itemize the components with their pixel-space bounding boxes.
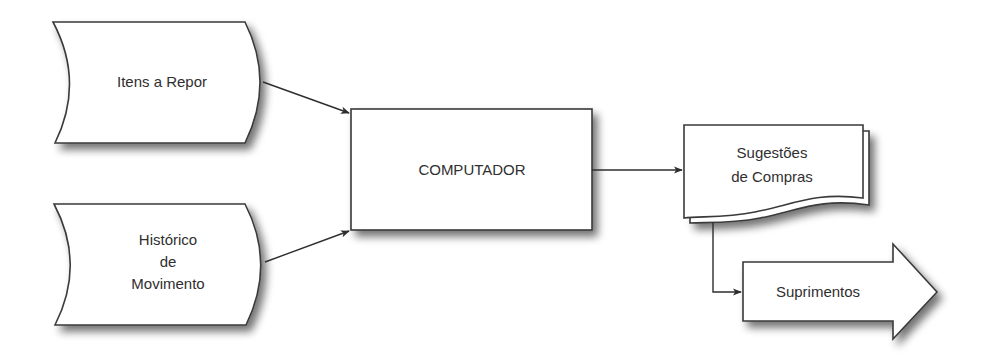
connector-itens-to-computador: [263, 82, 349, 113]
node-label: COMPUTADOR: [418, 161, 525, 178]
flowchart-diagram: Itens a Repor Histórico de Movimento COM…: [0, 0, 994, 358]
connector-sugestoes-to-suprimentos: [713, 222, 741, 292]
connector-historico-to-computador: [265, 231, 349, 262]
stored-data-shape: [54, 204, 261, 325]
node-label-line-1: Sugestões: [737, 144, 808, 161]
node-itens-a-repor: Itens a Repor: [53, 22, 260, 143]
node-sugestoes-de-compras: Sugestões de Compras: [684, 125, 869, 223]
node-label-line-2: de Compras: [731, 168, 813, 185]
node-label: Itens a Repor: [117, 73, 207, 90]
node-label-line-1: Histórico: [139, 231, 197, 248]
node-label-line-3: Movimento: [131, 275, 204, 292]
node-suprimentos: Suprimentos: [743, 244, 937, 339]
node-label: Suprimentos: [776, 283, 860, 300]
node-label-line-2: de: [160, 253, 177, 270]
node-historico-de-movimento: Histórico de Movimento: [54, 204, 261, 325]
node-computador: COMPUTADOR: [351, 109, 592, 230]
